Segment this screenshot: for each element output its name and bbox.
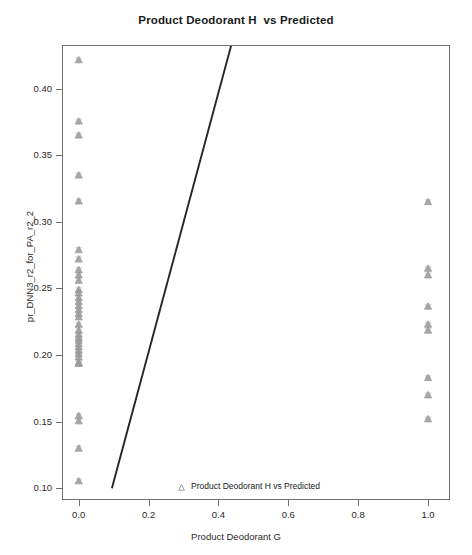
y-tick-mark xyxy=(56,355,62,356)
y-tick-mark xyxy=(56,422,62,423)
x-tick-mark xyxy=(358,500,359,506)
x-tick-label: 0.4 xyxy=(198,509,238,520)
y-tick-mark xyxy=(56,89,62,90)
plot-area xyxy=(62,45,450,500)
legend-label: Product Deodorant H vs Predicted xyxy=(191,481,320,491)
x-tick-label: 1.0 xyxy=(408,509,448,520)
y-tick-label: 0.35 xyxy=(12,149,52,160)
chart-title: Product Deodorant H vs Predicted xyxy=(0,14,472,26)
x-tick-mark xyxy=(288,500,289,506)
chart-legend: Product Deodorant H vs Predicted xyxy=(178,481,320,491)
y-tick-label: 0.10 xyxy=(12,482,52,493)
y-tick-label: 0.15 xyxy=(12,416,52,427)
x-tick-label: 0.6 xyxy=(268,509,308,520)
regression-line-path xyxy=(112,46,231,488)
scatter-plot-figure: Product Deodorant H vs Predicted 0.100.1… xyxy=(0,0,472,555)
triangle-marker-icon xyxy=(178,483,185,490)
x-tick-mark xyxy=(428,500,429,506)
y-tick-label: 0.40 xyxy=(12,83,52,94)
x-tick-label: 0.2 xyxy=(129,509,169,520)
x-tick-mark xyxy=(218,500,219,506)
y-tick-mark xyxy=(56,288,62,289)
regression-line xyxy=(112,46,231,488)
x-tick-label: 0.8 xyxy=(338,509,378,520)
x-tick-mark xyxy=(149,500,150,506)
y-tick-mark xyxy=(56,155,62,156)
y-tick-mark xyxy=(56,222,62,223)
x-tick-mark xyxy=(79,500,80,506)
data-points-group xyxy=(75,56,432,484)
y-tick-mark xyxy=(56,488,62,489)
plot-canvas xyxy=(63,46,449,499)
y-axis-label: pr_DNN3_r2_for_PA_r2_2 xyxy=(24,167,35,367)
x-tick-label: 0.0 xyxy=(59,509,99,520)
x-axis-label: Product Deodorant G xyxy=(0,531,472,542)
